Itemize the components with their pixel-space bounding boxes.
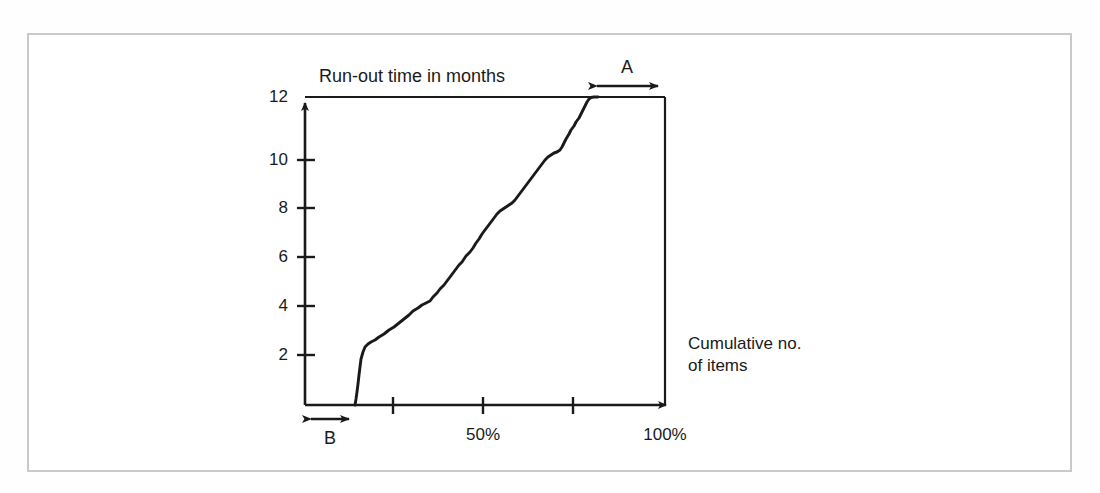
x-tick-label-100: 100%	[625, 425, 705, 445]
y-tick-label-10: 10	[250, 150, 288, 170]
annotation-b-label: B	[310, 428, 350, 449]
x-axis-label-line1: Cumulative no.	[688, 334, 801, 354]
figure-canvas: Run-out time in months 12 10 8 6 4 2 50%…	[0, 0, 1100, 493]
y-tick-label-2: 2	[250, 345, 288, 365]
chart-plot-area	[0, 0, 1100, 493]
y-tick-label-8: 8	[250, 198, 288, 218]
x-tick-label-50: 50%	[443, 425, 523, 445]
y-tick-label-4: 4	[250, 296, 288, 316]
chart-title: Run-out time in months	[319, 66, 505, 87]
x-axis-label-line2: of items	[688, 356, 748, 376]
annotation-a-label: A	[607, 57, 647, 78]
y-tick-label-12: 12	[250, 87, 288, 107]
y-tick-label-6: 6	[250, 247, 288, 267]
cumulative-curve	[355, 97, 598, 405]
